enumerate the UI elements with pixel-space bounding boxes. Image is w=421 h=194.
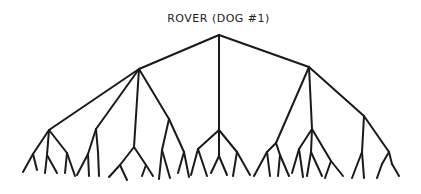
tree-edge	[109, 165, 120, 177]
tree-edge	[162, 150, 170, 178]
tree-edge	[134, 147, 146, 165]
tree-edge	[98, 152, 99, 176]
tree-edge	[134, 69, 139, 147]
tree-edge	[276, 143, 280, 155]
tree-edge	[77, 154, 88, 175]
tree-edge	[67, 153, 75, 176]
tree-edge	[23, 154, 33, 172]
tree-edge	[299, 149, 303, 177]
tree-edge	[382, 152, 389, 164]
tree-edge	[311, 152, 322, 176]
tree-edge	[146, 165, 153, 176]
tree-edge	[120, 147, 134, 165]
tree-edge	[278, 155, 280, 176]
tree-edge	[184, 152, 189, 177]
tree-edge	[88, 154, 89, 176]
tree-edge	[198, 130, 219, 149]
tree-edge	[49, 69, 139, 130]
tree-edge	[362, 152, 364, 178]
tree-edge	[88, 129, 96, 154]
tree-edge	[47, 155, 57, 173]
tree-edge	[267, 152, 270, 176]
tree-edge	[159, 150, 162, 179]
tree-edge	[311, 129, 312, 152]
tree-edge	[96, 69, 139, 129]
tree-edge	[276, 67, 309, 143]
tree-edge	[96, 129, 98, 152]
tree-edge	[267, 143, 276, 152]
tree-edge	[309, 67, 312, 129]
tree-edge	[233, 152, 237, 176]
tree-edge	[139, 35, 219, 69]
tree-edge	[325, 161, 331, 178]
tree-edge	[198, 149, 207, 176]
tree-edge	[219, 130, 237, 152]
tree-edge	[280, 155, 289, 176]
tree-edge	[33, 154, 37, 170]
tree-edge	[169, 119, 184, 152]
tree-edge	[352, 152, 362, 178]
tree-edge	[309, 67, 364, 116]
tree-edge	[364, 116, 389, 152]
tree-edge	[142, 165, 146, 176]
tree-edge	[389, 152, 392, 164]
tree-diagram: ROVER (DOG #1)	[0, 0, 421, 194]
tree-edge	[312, 129, 331, 161]
tree-edge	[49, 130, 67, 153]
tree-edge	[377, 164, 382, 178]
tree-edge	[219, 156, 227, 175]
tree-edge	[211, 156, 219, 173]
tree-edge	[162, 119, 169, 150]
tree-edge	[237, 152, 250, 175]
tree-edge	[307, 152, 311, 176]
tree-edge	[219, 35, 309, 67]
tree-edge	[299, 129, 312, 149]
tree-edge	[362, 116, 364, 152]
tree-edge	[292, 149, 299, 173]
tree-edge	[331, 161, 343, 176]
tree-branches	[0, 0, 421, 194]
tree-edge	[178, 152, 184, 173]
tree-edge	[65, 153, 67, 173]
tree-edge	[191, 149, 198, 175]
tree-edge	[392, 164, 399, 176]
tree-edge	[254, 152, 267, 176]
tree-edge	[139, 69, 169, 119]
tree-edge	[45, 155, 47, 173]
tree-edge	[120, 165, 127, 180]
